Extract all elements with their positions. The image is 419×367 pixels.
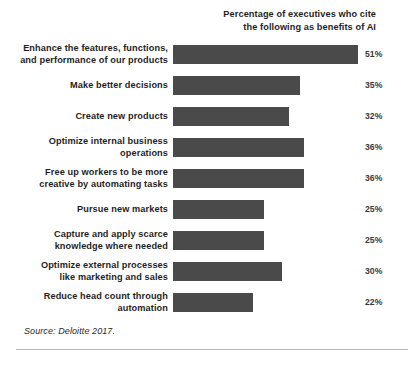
- bar-rect: [173, 45, 358, 64]
- bar-value-label: 25%: [365, 204, 382, 214]
- bar-value-label: 36%: [365, 142, 382, 152]
- bar-rect: [173, 169, 304, 188]
- bar-category-label: Make better decisions: [0, 79, 168, 91]
- bar-category-label-line: Pursue new markets: [0, 203, 168, 215]
- bar-row: Free up workers to be more creative by a…: [0, 169, 419, 188]
- chart-plot-area: Enhance the features, functions, and per…: [0, 45, 419, 325]
- bar-rect: [173, 262, 282, 281]
- chart-title-line-1: Percentage of executives who cite: [190, 8, 376, 21]
- bottom-divider: [16, 349, 408, 350]
- source-note: Source: Deloitte 2017.: [24, 326, 115, 336]
- bar-rect: [173, 76, 300, 95]
- bar-row: Make better decisions 35%: [0, 76, 419, 95]
- bar-category-label-line: Optimize internal business: [0, 135, 168, 147]
- bar-rect: [173, 138, 304, 157]
- bar-chart-figure: Percentage of executives who cite the fo…: [0, 0, 419, 367]
- bar-rect: [173, 200, 264, 219]
- bar-value-label: 51%: [365, 49, 382, 59]
- bar-value-label: 35%: [365, 80, 382, 90]
- bar-category-label-line: Free up workers to be more: [0, 166, 168, 178]
- bar-category-label-line: knowledge where needed: [0, 240, 168, 252]
- bar-value-label: 32%: [365, 111, 382, 121]
- bar-category-label-line: Optimize external processes: [0, 259, 168, 271]
- bar-rect: [173, 293, 253, 312]
- bar-category-label-line: Create new products: [0, 110, 168, 122]
- bar-category-label-line: Enhance the features, functions,: [0, 42, 168, 54]
- bar-row: Pursue new markets 25%: [0, 200, 419, 219]
- bar-category-label-line: operations: [0, 147, 168, 159]
- bar-category-label-line: automation: [0, 302, 168, 314]
- bar-category-label: Create new products: [0, 110, 168, 122]
- bar-category-label-line: Make better decisions: [0, 79, 168, 91]
- bar-category-label-line: creative by automating tasks: [0, 178, 168, 190]
- bar-category-label: Reduce head count through automation: [0, 290, 168, 315]
- bar-category-label-line: like marketing and sales: [0, 271, 168, 283]
- bar-category-label: Free up workers to be more creative by a…: [0, 166, 168, 191]
- bar-row: Optimize internal business operations 36…: [0, 138, 419, 157]
- bar-category-label: Enhance the features, functions, and per…: [0, 42, 168, 67]
- bar-row: Enhance the features, functions, and per…: [0, 45, 419, 64]
- bar-category-label-line: Capture and apply scarce: [0, 228, 168, 240]
- bar-row: Optimize external processes like marketi…: [0, 262, 419, 281]
- bar-row: Reduce head count through automation 22%: [0, 293, 419, 312]
- chart-title-line-2: the following as benefits of AI: [190, 21, 376, 34]
- bar-category-label: Optimize internal business operations: [0, 135, 168, 160]
- bar-value-label: 36%: [365, 173, 382, 183]
- bar-rect: [173, 107, 289, 126]
- bar-value-label: 30%: [365, 266, 382, 276]
- bar-value-label: 25%: [365, 235, 382, 245]
- bar-row: Capture and apply scarce knowledge where…: [0, 231, 419, 250]
- bar-category-label: Optimize external processes like marketi…: [0, 259, 168, 284]
- bar-value-label: 22%: [365, 297, 382, 307]
- bar-row: Create new products 32%: [0, 107, 419, 126]
- chart-title: Percentage of executives who cite the fo…: [190, 8, 376, 34]
- bar-category-label: Pursue new markets: [0, 203, 168, 215]
- bar-category-label-line: Reduce head count through: [0, 290, 168, 302]
- bar-category-label: Capture and apply scarce knowledge where…: [0, 228, 168, 253]
- bar-category-label-line: and performance of our products: [0, 54, 168, 66]
- bar-rect: [173, 231, 264, 250]
